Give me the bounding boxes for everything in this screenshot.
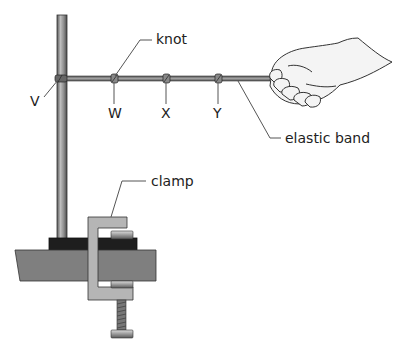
hand [270, 38, 392, 107]
label-v: V [30, 94, 40, 108]
knot-w [111, 74, 118, 83]
retort-stand-pole [57, 15, 67, 240]
label-w: W [108, 106, 122, 120]
v-leader [44, 80, 58, 97]
knot-y [215, 74, 222, 83]
bench-top [15, 250, 156, 281]
label-elastic-band: elastic band [285, 131, 370, 145]
knot-leader [115, 40, 152, 76]
clamp-leader [111, 181, 146, 217]
label-y: Y [213, 106, 222, 120]
apparatus-drawing [0, 0, 401, 353]
knot-x [163, 74, 170, 83]
label-knot: knot [156, 32, 187, 46]
label-clamp: clamp [151, 174, 194, 188]
leader-lines [44, 40, 281, 217]
elastic-band-apparatus-diagram: knot V W X Y elastic band clamp [0, 0, 401, 353]
label-x: X [161, 106, 171, 120]
